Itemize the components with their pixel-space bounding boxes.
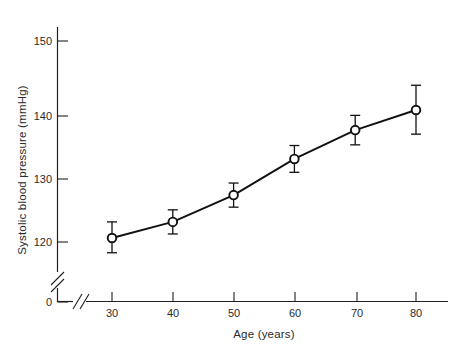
y-tick-label-140: 140 <box>34 110 52 122</box>
x-tick-label-40: 40 <box>167 307 179 319</box>
data-marker-50 <box>229 191 238 200</box>
figure-container: 150 140 130 120 0 Systolic blood pressur… <box>0 0 467 352</box>
y-tick-label-0: 0 <box>46 296 52 308</box>
y-tick-label-120: 120 <box>34 236 52 248</box>
y-axis-group: 150 140 130 120 0 Systolic blood pressur… <box>16 27 68 308</box>
data-marker-70 <box>351 126 360 135</box>
data-point-group-70 <box>350 115 360 144</box>
data-marker-60 <box>290 155 299 164</box>
data-point-group-80 <box>411 85 421 134</box>
series-line <box>112 110 416 238</box>
x-tick-label-30: 30 <box>106 307 118 319</box>
y-axis-title: Systolic blood pressure (mmHg) <box>16 85 28 255</box>
data-point-group-50 <box>229 183 239 207</box>
x-tick-label-80: 80 <box>410 307 422 319</box>
y-tick-label-150: 150 <box>34 35 52 47</box>
data-point-group-30 <box>107 222 117 253</box>
data-series-group <box>107 85 421 253</box>
data-marker-30 <box>108 234 117 243</box>
x-tick-label-60: 60 <box>289 307 301 319</box>
data-point-group-40 <box>168 210 178 234</box>
data-marker-40 <box>169 218 178 227</box>
x-axis-title: Age (years) <box>233 328 295 340</box>
page-caption-strip <box>52 345 212 352</box>
data-point-group-60 <box>289 146 299 173</box>
x-tick-label-70: 70 <box>351 307 363 319</box>
line-chart: 150 140 130 120 0 Systolic blood pressur… <box>0 0 467 352</box>
x-tick-label-50: 50 <box>228 307 240 319</box>
x-axis-group: 30 40 50 60 70 80 Age (years) <box>58 292 449 340</box>
y-tick-label-130: 130 <box>34 173 52 185</box>
data-marker-80 <box>412 106 421 115</box>
